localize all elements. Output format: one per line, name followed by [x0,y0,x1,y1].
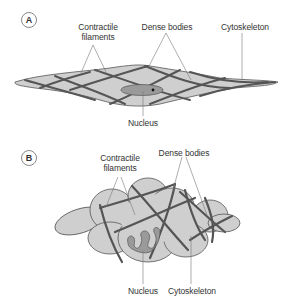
panel-a-badge: A [21,12,37,28]
panel-b-label-contractile-filaments: Contractile filaments [90,153,150,173]
panel-b-label-dense-bodies: Dense bodies [152,148,216,158]
panel-b-label-cytoskeleton: Cytoskeleton [162,286,222,296]
diagram-canvas [0,0,292,297]
panel-a-label-nucleus: Nucleus [120,118,166,128]
panel-a-label-dense-bodies: Dense bodies [135,22,199,32]
label-line: Contractile [90,153,150,163]
panel-a-nucleolus [152,89,155,92]
label-line: Contractile [68,22,128,32]
panel-a-label-contractile-filaments: Contractile filaments [68,22,128,42]
panel-b-label-nucleus: Nucleus [120,286,166,296]
panel-a-cell [15,65,278,106]
label-line: filaments [68,32,128,42]
label-line: filaments [90,163,150,173]
panel-a-nucleus [121,85,163,96]
panel-a-label-cytoskeleton: Cytoskeleton [215,22,275,32]
panel-b-badge: B [21,150,37,166]
